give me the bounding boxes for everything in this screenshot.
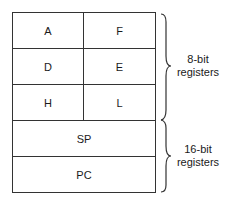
label-16bit-line1: 16-bit [168,143,228,156]
label-8bit-line2: registers [168,66,228,79]
brace-icons [0,0,228,202]
label-8bit-line1: 8-bit [168,53,228,66]
label-16bit: 16-bit registers [168,143,228,169]
label-8bit: 8-bit registers [168,53,228,79]
label-16bit-line2: registers [168,156,228,169]
